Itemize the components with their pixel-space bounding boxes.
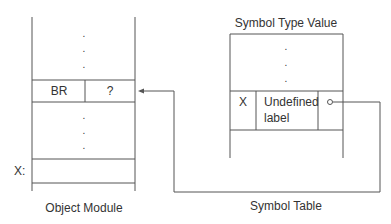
- object-module-ellipsis-2: .: [83, 43, 86, 54]
- forward-reference-connector: [138, 89, 380, 193]
- symbol-table-ellipsis-2: .: [285, 57, 288, 68]
- object-module-ellipsis-3: .: [83, 59, 86, 70]
- symbol-table: Symbol Type Value . . . X Undefined labe…: [230, 16, 343, 213]
- symbol-table-ellipsis-1: .: [285, 41, 288, 52]
- symbol-table-caption: Symbol Table: [250, 199, 322, 213]
- object-module-caption: Object Module: [45, 201, 123, 215]
- x-location-label: X:: [14, 164, 25, 178]
- symbol-table-header: Symbol Type Value: [235, 16, 338, 30]
- object-module: . . . BR ? . . . X: Object Module: [14, 17, 135, 215]
- entry-type-line1: Undefined: [264, 95, 319, 109]
- diagram-canvas: . . . BR ? . . . X: Object Module Symbol…: [0, 0, 391, 224]
- symbol-table-ellipsis-3: .: [285, 73, 288, 84]
- entry-symbol: X: [239, 95, 247, 109]
- object-module-ellipsis-5: .: [83, 125, 86, 136]
- object-module-ellipsis-4: .: [83, 110, 86, 121]
- arrowhead-icon: [138, 89, 144, 94]
- entry-type-line2: label: [264, 111, 289, 125]
- br-opcode: BR: [51, 84, 68, 98]
- object-module-ellipsis-6: .: [83, 140, 86, 151]
- connector-path: [140, 91, 380, 192]
- pointer-origin-icon: [328, 100, 333, 105]
- br-operand-placeholder: ?: [107, 84, 114, 98]
- object-module-ellipsis-1: .: [83, 28, 86, 39]
